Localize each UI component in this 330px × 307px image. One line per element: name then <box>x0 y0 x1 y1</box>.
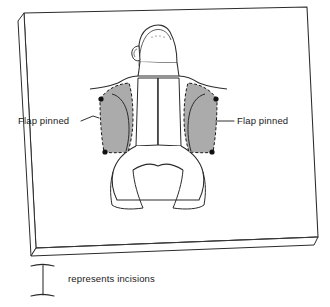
specimen-neck <box>138 62 179 76</box>
specimen-back-panel-right <box>158 78 181 146</box>
specimen-back-panel-left <box>136 78 158 146</box>
left-flap-pin-bottom <box>102 149 107 154</box>
right-flap-pin-bottom <box>209 149 214 154</box>
incision-legend: represents incisions <box>31 265 155 297</box>
dissection-diagram: Flap pinned Flap pinned represents incis… <box>0 0 330 307</box>
incision-legend-text: represents incisions <box>68 273 155 284</box>
i-bar-incision-symbol <box>31 265 54 297</box>
left-flap-pin-top <box>98 96 103 101</box>
specimen-ear <box>132 46 140 61</box>
right-flap-pin-top <box>213 96 218 101</box>
label-flap-pinned-left-text: Flap pinned <box>18 115 69 126</box>
specimen-pelvis <box>112 146 204 200</box>
diagram-canvas: Flap pinned Flap pinned represents incis… <box>0 0 330 307</box>
i-bar-bottom-cap <box>31 295 54 297</box>
label-flap-pinned-right-text: Flap pinned <box>237 115 288 126</box>
